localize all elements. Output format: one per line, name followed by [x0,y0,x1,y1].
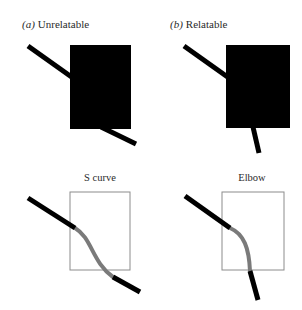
figure-artwork [0,0,302,310]
panel-b-artwork [184,45,290,153]
elbow-lower-vertical-segment [250,271,258,300]
panel-a-occluder-rect [70,45,131,129]
panel-b-occluder-rect [226,45,290,128]
elbow-outline-box [222,192,284,270]
s-curve-upper-left-segment [28,198,75,228]
panel-a-artwork [28,45,136,144]
panel-b-lower-vertical-segment [253,127,259,153]
panel-elbow-artwork [185,192,284,300]
panel-a-upper-left-segment [28,46,73,78]
s-curve-lower-right-segment [113,277,140,292]
elbow-upper-left-segment [185,196,230,228]
panel-b-upper-left-segment [184,46,229,78]
elbow-completion-path [230,228,250,271]
panel-s-curve-artwork [28,192,140,292]
panel-a-lower-right-segment [101,127,136,144]
figure-root: (a)Unrelatable (b)Relatable S curve Elbo… [0,0,302,310]
